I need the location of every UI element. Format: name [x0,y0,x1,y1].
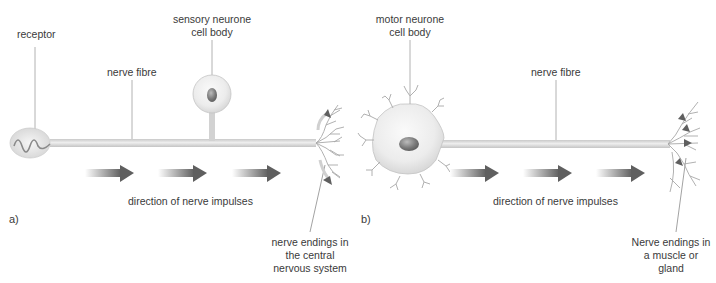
motor-cell-body-label-line2: cell body [372,26,448,39]
motor-endings-label: Nerve endings in a muscle or gland [626,236,716,275]
sensory-nucleus-icon [207,88,217,102]
diagram-graphics [0,0,716,283]
neurone-diagram: receptor nerve fibre sensory neurone cel… [0,0,716,283]
nerve-fibre-a [50,139,316,147]
impulse-arrows-b [450,165,645,182]
endings-leader-line-b [676,158,686,232]
direction-arrow-icon [558,165,572,182]
receptor-label: receptor [17,28,56,41]
direction-arrow-icon [120,165,134,182]
endings-leader-line [310,165,325,232]
motor-cell-body-label: motor neurone cell body [372,13,448,39]
panel-letter-a: a) [9,213,19,225]
sensory-cell-body-label: sensory neurone cell body [172,13,252,39]
direction-arrow-icon [267,165,281,182]
direction-arrow-icon [631,165,645,182]
motor-nucleus-icon [399,137,419,151]
panel-letter-b: b) [361,213,371,225]
impulse-arrows-a [85,165,281,182]
direction-arrow-icon [485,165,499,182]
sensory-cell-body-label-line1: sensory neurone [172,13,252,26]
nerve-fibre-b [430,140,670,148]
nerve-fibre-label-b: nerve fibre [531,66,581,79]
sensory-cell-body-label-line2: cell body [172,26,252,39]
sensory-endings-label: nerve endings in the central nervous sys… [265,236,355,275]
outgoing-arrow-icon [682,124,690,132]
motor-cell-body-label-line1: motor neurone [372,13,448,26]
outgoing-arrow-icon [678,113,686,121]
cell-body-stalk [209,110,215,141]
motor-endings-label-line2: a muscle or [626,249,716,262]
nerve-fibre-label-a: nerve fibre [107,66,157,79]
sensory-endings-label-line3: nervous system [265,262,355,275]
sensory-endings-label-line1: nerve endings in [265,236,355,249]
direction-label-a: direction of nerve impulses [128,195,253,208]
direction-label-b: direction of nerve impulses [493,195,618,208]
motor-endings-label-line1: Nerve endings in [626,236,716,249]
motor-endings-label-line3: gland [626,262,716,275]
direction-arrow-icon [193,165,207,182]
sensory-endings-label-line2: the central [265,249,355,262]
